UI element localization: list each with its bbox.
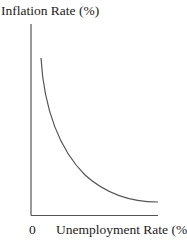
origin-label: 0 bbox=[29, 222, 36, 238]
phillips-curve-chart bbox=[0, 0, 187, 243]
phillips-curve bbox=[41, 58, 158, 202]
x-axis-label: Unemployment Rate (%) bbox=[56, 222, 187, 238]
